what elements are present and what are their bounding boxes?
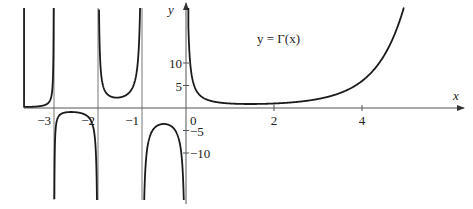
gamma-curve-branch — [144, 124, 184, 200]
y-tick-label: −5 — [190, 124, 204, 139]
x-tick-label: −3 — [37, 113, 51, 128]
x-tick-label: 4 — [359, 113, 366, 128]
x-axis-label: x — [452, 88, 459, 103]
y-tick-label: 5 — [176, 79, 183, 94]
gamma-function-chart: −3−2−1024105−5−10 x y y = Γ(x) — [0, 0, 473, 209]
vertical-asymptotes — [54, 8, 142, 200]
function-label: y = Γ(x) — [257, 31, 300, 46]
gamma-curve-branch — [99, 8, 140, 98]
gamma-curve-branch — [188, 8, 404, 104]
x-tick-label: −1 — [125, 113, 139, 128]
gamma-curves — [24, 8, 404, 200]
y-tick-label: 10 — [169, 56, 182, 71]
y-axis-label: y — [166, 2, 174, 17]
y-tick-label: −10 — [190, 146, 210, 161]
gamma-curve-branch — [24, 8, 54, 107]
x-tick-label: 2 — [271, 113, 278, 128]
